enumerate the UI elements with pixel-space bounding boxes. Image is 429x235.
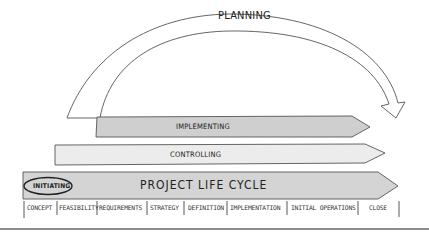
planning-label: PLANNING xyxy=(218,9,271,22)
phase-feasibility: FEASIBILITY xyxy=(59,204,99,211)
implementing-bar xyxy=(96,116,370,137)
phase-requirements: REQUIREMENTS xyxy=(99,204,142,211)
planning-arrow xyxy=(67,14,405,118)
phase-concept: CONCEPT xyxy=(27,204,52,211)
phase-strategy: STRATEGY xyxy=(150,204,179,211)
initiating-label: INITIATING xyxy=(33,182,70,190)
phase-initial-operations: INITIAL OPERATIONS xyxy=(291,204,356,211)
phase-implementation: IMPLEMENTATION xyxy=(230,204,280,211)
phase-close: CLOSE xyxy=(369,204,387,211)
controlling-label: CONTROLLING xyxy=(170,150,221,159)
diagram-canvas xyxy=(0,0,429,235)
phase-definition: DEFINITION xyxy=(188,204,224,211)
implementing-label: IMPLEMENTING xyxy=(176,122,230,131)
life-cycle-label: PROJECT LIFE CYCLE xyxy=(140,178,267,192)
